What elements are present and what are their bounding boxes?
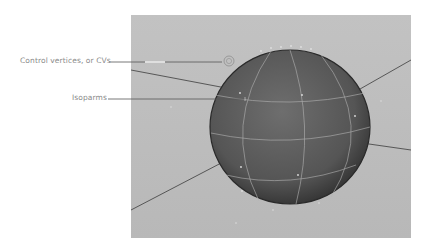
callout-label-cvs: Control vertices, or CVs [20, 56, 111, 65]
viewport-canvas [131, 15, 411, 238]
3d-viewport[interactable] [131, 15, 411, 238]
callout-label-isoparms: Isoparms [72, 93, 107, 102]
